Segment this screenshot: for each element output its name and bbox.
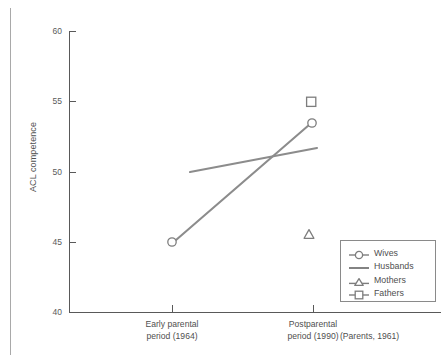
square-marker-icon xyxy=(348,287,370,299)
chart-legend: Wives Husbands Mothers xyxy=(340,240,436,302)
data-point-wives-postparental xyxy=(308,119,316,127)
legend-item-husbands: Husbands xyxy=(348,260,435,273)
legend-label-mothers: Mothers xyxy=(374,274,406,286)
legend-item-fathers: Fathers xyxy=(348,287,435,300)
data-point-wives-early-parental xyxy=(168,238,176,246)
legend-item-wives: Wives xyxy=(348,246,435,259)
series-line-husbands xyxy=(190,148,317,172)
legend-item-mothers: Mothers xyxy=(348,273,435,286)
circle-marker-icon xyxy=(348,247,370,259)
data-point-mothers-postparental xyxy=(304,230,314,239)
line-marker-icon xyxy=(348,260,370,272)
chart-figure: 60 55 50 45 40 ACL competence Early pare… xyxy=(0,0,447,362)
plot-area xyxy=(0,0,447,362)
legend-label-wives: Wives xyxy=(374,247,398,259)
legend-label-fathers: Fathers xyxy=(374,287,404,299)
triangle-marker-icon xyxy=(348,274,370,286)
series-line-wives xyxy=(176,125,309,240)
legend-label-husbands: Husbands xyxy=(374,260,414,272)
data-point-fathers-postparental xyxy=(307,97,316,106)
